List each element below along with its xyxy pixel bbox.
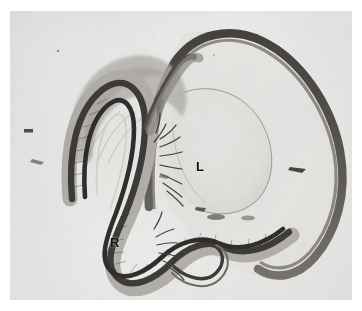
- eye-section-drawing: [10, 11, 352, 300]
- annotation-label-lens: L: [196, 160, 204, 173]
- micrograph-plate: L R: [10, 11, 352, 300]
- annotation-label-retina: R: [110, 236, 119, 249]
- micrograph-figure: L R: [0, 0, 362, 311]
